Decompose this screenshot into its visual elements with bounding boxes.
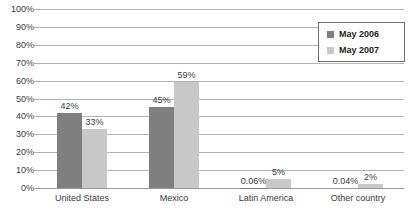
bar-group: 42%33% (57, 9, 107, 188)
x-axis-category-label: Other country (312, 193, 404, 204)
y-axis-tick-label: 10% (0, 166, 34, 175)
bar-group: 45%59% (149, 9, 199, 188)
bar (149, 107, 174, 188)
legend-label-may-2007: May 2007 (339, 46, 379, 55)
legend-swatch-may-2006 (327, 31, 334, 38)
gridline-0 (36, 188, 404, 189)
bar-value-label: 2% (350, 173, 391, 182)
bar-chart: 100%90%80%70%60%50%40%30%20%10%0% 42%33%… (0, 0, 408, 217)
bar (174, 82, 199, 188)
x-axis-category-label: Mexico (128, 193, 220, 204)
x-axis-category-label: Latin America (220, 193, 312, 204)
y-axis-tick-label: 20% (0, 148, 34, 157)
legend-item-may-2006: May 2006 (327, 27, 404, 42)
y-axis-tick-label: 0% (0, 184, 34, 193)
bar-value-label: 59% (166, 71, 207, 80)
legend-item-may-2007: May 2007 (327, 43, 404, 58)
bar-group: 0.06%5% (241, 9, 291, 188)
y-axis-tick-label: 100% (0, 5, 34, 14)
x-axis-category-label: United States (36, 193, 128, 204)
y-axis-tick-label: 50% (0, 95, 34, 104)
bar-value-label: 5% (258, 168, 299, 177)
y-axis-tick-label: 70% (0, 59, 34, 68)
y-axis-tick-label: 80% (0, 41, 34, 50)
bar (82, 129, 107, 188)
y-axis: 100%90%80%70%60%50%40%30%20%10%0% (0, 0, 34, 217)
bar (266, 179, 291, 188)
y-axis-tick-label: 30% (0, 130, 34, 139)
y-axis-tick-label: 40% (0, 112, 34, 121)
legend-label-may-2006: May 2006 (339, 30, 379, 39)
bar-value-label: 33% (74, 118, 115, 127)
bar-value-label: 42% (49, 102, 90, 111)
chart-legend: May 2006 May 2007 (318, 22, 405, 62)
bar (358, 184, 383, 188)
y-axis-tick-label: 60% (0, 77, 34, 86)
legend-swatch-may-2007 (327, 47, 334, 54)
y-axis-tick-label: 90% (0, 23, 34, 32)
